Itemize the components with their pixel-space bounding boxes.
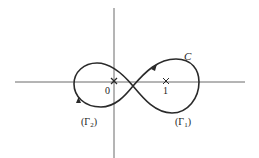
diagram-svg: 0 1 C (Γ2) (Γ1) [0,0,259,158]
origin-label: 0 [105,85,110,96]
point-one-marker-icon [163,78,169,84]
gamma2-label: (Γ2) [81,116,97,129]
contour-gamma2-lobe [74,63,133,107]
point-one-label: 1 [163,85,168,96]
curve-label: C [184,50,192,62]
gamma1-label: (Γ1) [175,116,191,129]
contour-diagram: 0 1 C (Γ2) (Γ1) [0,0,259,158]
